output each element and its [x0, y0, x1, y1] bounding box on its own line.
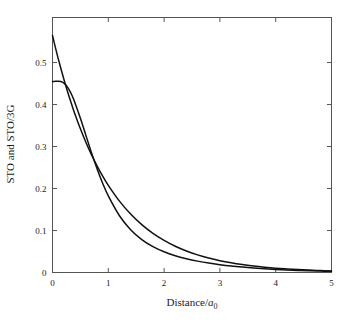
- x-tick-label: 4: [273, 279, 278, 288]
- y-tick-label: 0.1: [0, 226, 47, 235]
- y-axis-title: STO and STO/3G: [4, 104, 16, 183]
- y-tick-label: 0: [0, 268, 47, 277]
- x-tick-label: 1: [106, 279, 111, 288]
- x-tick-label: 5: [329, 279, 334, 288]
- x-tick-label: 0: [50, 279, 55, 288]
- y-tick-label: 0.5: [0, 58, 47, 67]
- x-tick-label: 2: [162, 279, 167, 288]
- chart-container: 01234500.10.20.30.40.5 Distance/a0 STO a…: [0, 0, 349, 322]
- x-axis-title: Distance/a0: [166, 296, 217, 311]
- x-axis-title-prefix: Distance/: [166, 296, 208, 308]
- x-tick-label: 3: [218, 279, 223, 288]
- y-tick-label: 0.2: [0, 184, 47, 193]
- x-axis-title-subscript: 0: [214, 302, 218, 311]
- plot-area: [0, 0, 349, 322]
